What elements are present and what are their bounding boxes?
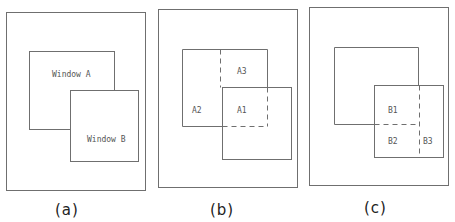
region-b1-label: B1: [388, 106, 398, 115]
region-a1-label: A1: [237, 106, 247, 115]
window-b: [71, 91, 139, 162]
caption-b: (b): [210, 201, 234, 219]
window-b: [223, 88, 292, 160]
screen-frame: [310, 8, 449, 186]
panel-b: A3 A2 A1 (b): [159, 10, 298, 220]
region-a2-label: A2: [192, 106, 202, 115]
caption-c: (c): [364, 199, 387, 217]
region-a3-label: A3: [237, 67, 247, 76]
caption-a: (a): [55, 201, 79, 219]
region-b2-label: B2: [388, 137, 398, 146]
screen-frame: [159, 10, 298, 188]
window-a-label: Window A: [52, 70, 91, 79]
window-b-label: Window B: [87, 135, 126, 144]
panel-a: Window A Window B (a): [7, 13, 146, 220]
window-overlap-diagram: Window A Window B (a) A3 A2 A1 (b) B1 B2…: [0, 0, 455, 222]
region-b3-label: B3: [423, 137, 433, 146]
panel-c: B1 B2 B3 (c): [310, 8, 449, 218]
window-b: [375, 86, 444, 158]
